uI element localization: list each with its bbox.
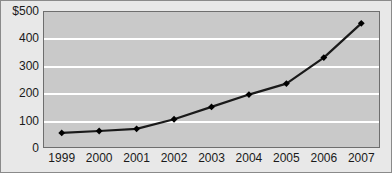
y-axis-tick-label: 300 xyxy=(1,60,39,72)
x-axis-tick-label: 2006 xyxy=(304,152,344,164)
y-axis-tick-label: $500 xyxy=(1,5,39,17)
x-axis-tick-label: 2001 xyxy=(117,152,157,164)
data-point-marker xyxy=(133,125,140,132)
data-point-marker xyxy=(171,116,178,123)
data-point-marker xyxy=(208,104,215,111)
x-axis-tick-label: 2007 xyxy=(341,152,381,164)
y-axis-tick-label: 0 xyxy=(1,142,39,154)
data-point-marker xyxy=(58,130,65,137)
y-axis-tick-label: 200 xyxy=(1,87,39,99)
x-axis-tick-label: 2002 xyxy=(154,152,194,164)
x-axis-tick-label: 1999 xyxy=(42,152,82,164)
data-point-marker xyxy=(246,91,253,98)
x-axis-tick-label: 2004 xyxy=(229,152,269,164)
data-series-line xyxy=(43,11,380,148)
x-axis-tick-label: 2005 xyxy=(266,152,306,164)
line-chart-figure: $5004003002001000 1999200020012002200320… xyxy=(0,0,392,173)
y-axis-tick-label: 100 xyxy=(1,115,39,127)
x-axis-tick-label: 2000 xyxy=(79,152,119,164)
x-axis-tick-label: 2003 xyxy=(192,152,232,164)
series-polyline xyxy=(62,23,362,133)
data-point-marker xyxy=(96,128,103,135)
y-axis-tick-label: 400 xyxy=(1,32,39,44)
